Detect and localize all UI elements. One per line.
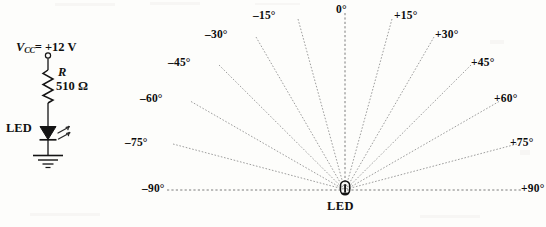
angle-label-plus-45: +45° [471,56,494,68]
radiation-rays-svg: .ray { stroke:#8c8c8c; stroke-width:0.85… [130,0,546,227]
angle-label-plus-60: +60° [494,92,517,104]
angle-label-plus-75: +75° [510,136,533,148]
circuit-schematic-svg [0,0,140,227]
ray-minus-15 [298,19,345,189]
angle-label-minus-30: –30° [205,28,228,40]
scan-artifact [520,150,530,155]
ground-symbol [33,156,63,168]
ray-plus-45 [347,65,472,189]
supply-subscript: CC [24,45,34,55]
angle-label-minus-90: –90° [142,182,165,194]
ray-minus-45 [219,65,344,189]
ray-minus-60 [191,102,343,190]
angle-label-minus-15: –15° [253,9,276,21]
ray-plus-60 [347,102,499,190]
scan-artifact [255,3,300,5]
supply-voltage-label: VCC= +12 V [16,40,76,55]
scan-artifact [30,213,100,216]
radiation-pattern-diagram: .ray { stroke:#8c8c8c; stroke-width:0.85… [130,0,546,227]
resistor-designator-label: R [58,65,66,80]
ray-minus-75 [173,144,343,189]
angle-label-plus-15: +15° [394,9,417,21]
scan-artifact [55,3,115,6]
angle-label-zero: 0° [336,3,347,15]
resistor-value-label: 510 Ω [56,79,88,94]
led-vertex-label: LED [327,199,354,214]
angle-label-minus-75: –75° [125,136,148,148]
ray-minus-30 [256,37,344,189]
angle-label-plus-30: +30° [435,28,458,40]
led-anode-triangle [40,127,56,140]
led-emission-arrows-icon [58,126,70,139]
figure-root: VCC= +12 V R 510 Ω LED .ray { stroke:#8c… [0,0,546,227]
ray-plus-15 [346,19,393,189]
ray-plus-75 [347,144,517,189]
scan-artifact [490,40,504,44]
angle-label-plus-90: +90° [521,182,544,194]
resistor-symbol [43,70,53,103]
angle-label-minus-60: –60° [140,92,163,104]
led-lamp-icon [341,181,350,195]
supply-value: = +12 V [35,40,77,54]
scan-artifact [420,215,480,218]
ray-plus-30 [346,37,434,189]
angle-label-minus-45: –45° [168,56,191,68]
led-component-label: LED [6,121,32,136]
led-drive-circuit: VCC= +12 V R 510 Ω LED [0,0,140,227]
scan-artifact [150,2,200,5]
